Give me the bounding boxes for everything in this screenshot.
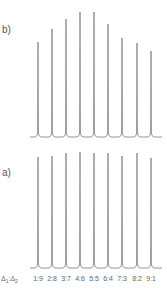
ratio-tick-label: 2:8: [47, 275, 57, 282]
spectrum-trace: [30, 12, 162, 137]
ratio-tick-label: 7:3: [117, 275, 127, 282]
ratio-tick-label: 9:1: [146, 275, 156, 282]
panel-a-spectrum: [30, 152, 162, 268]
ratio-tick-label: 6:4: [103, 275, 113, 282]
ratio-tick-label: 5:5: [89, 275, 99, 282]
panel-b-label: b): [2, 24, 11, 35]
panel-b-spectrum: [30, 12, 162, 137]
ratio-tick-label: 3:7: [61, 275, 71, 282]
spectra-figure: b) a) Δ1:Δ2 1:92:83:74:65:56:47:38:29:1: [0, 0, 167, 288]
ratio-tick-labels: 1:92:83:74:65:56:47:38:29:1: [33, 275, 156, 282]
panel-a-label: a): [2, 167, 11, 178]
ratio-axis-label: Δ1:Δ2: [1, 275, 18, 284]
spectrum-trace: [30, 152, 162, 268]
ratio-tick-label: 8:2: [132, 275, 142, 282]
ratio-tick-label: 4:6: [75, 275, 85, 282]
ratio-tick-label: 1:9: [33, 275, 43, 282]
